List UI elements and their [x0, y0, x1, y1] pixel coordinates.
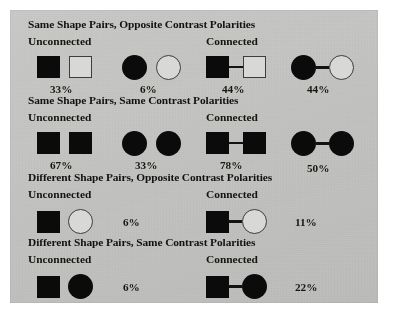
- stimulus-pair: [122, 131, 181, 156]
- square-black-shape: [206, 211, 229, 233]
- circle-white-shape: [156, 55, 181, 80]
- stimulus-pair: [206, 209, 267, 234]
- percent-label: 6%: [123, 216, 140, 228]
- circle-black-shape: [156, 131, 181, 156]
- section-title: Same Shape Pairs, Same Contrast Polariti…: [28, 94, 238, 106]
- circle-black-shape: [68, 274, 93, 299]
- circle-black-shape: [291, 131, 316, 156]
- percent-label: 67%: [50, 159, 72, 171]
- square-black-shape: [243, 132, 266, 154]
- circle-black-shape: [329, 131, 354, 156]
- circle-white-shape: [242, 209, 267, 234]
- stimulus-pair: [206, 274, 267, 299]
- column-label-connected: Connected: [206, 253, 258, 265]
- connector-line: [229, 285, 242, 287]
- square-black-shape: [37, 132, 60, 154]
- column-label-unconnected: Unconnected: [28, 35, 91, 47]
- connector-line: [229, 66, 243, 68]
- section-same-shape-opposite-polarity: Same Shape Pairs, Opposite Contrast Pola…: [10, 18, 378, 96]
- column-label-unconnected: Unconnected: [28, 188, 91, 200]
- column-label-connected: Connected: [206, 188, 258, 200]
- column-label-unconnected: Unconnected: [28, 111, 91, 123]
- stimulus-pair: [37, 274, 93, 299]
- square-white-shape: [243, 56, 266, 78]
- square-black-shape: [206, 132, 229, 154]
- column-label-unconnected: Unconnected: [28, 253, 91, 265]
- column-label-connected: Connected: [206, 35, 258, 47]
- square-black-shape: [37, 211, 60, 233]
- connector-line: [316, 142, 329, 144]
- section-title: Same Shape Pairs, Opposite Contrast Pola…: [28, 18, 255, 30]
- percent-label: 22%: [295, 281, 317, 293]
- percent-label: 78%: [220, 159, 242, 171]
- square-black-shape: [206, 56, 229, 78]
- percent-label: 11%: [295, 216, 317, 228]
- stimulus-pair: [37, 132, 92, 154]
- section-different-shape-same-polarity: Different Shape Pairs, Same Contrast Pol…: [10, 236, 378, 302]
- section-same-shape-same-polarity: Same Shape Pairs, Same Contrast Polariti…: [10, 94, 378, 172]
- percent-label: 6%: [123, 281, 140, 293]
- square-white-shape: [69, 56, 92, 78]
- stimulus-pair: [291, 131, 354, 156]
- stimulus-pair: [206, 132, 266, 154]
- stimulus-pair: [291, 55, 354, 80]
- percent-label: 33%: [135, 159, 157, 171]
- circle-black-shape: [122, 131, 147, 156]
- circle-black-shape: [291, 55, 316, 80]
- circle-black-shape: [242, 274, 267, 299]
- square-black-shape: [69, 132, 92, 154]
- connector-line: [229, 142, 243, 144]
- column-label-connected: Connected: [206, 111, 258, 123]
- section-different-shape-opposite-polarity: Different Shape Pairs, Opposite Contrast…: [10, 171, 378, 237]
- circle-white-shape: [68, 209, 93, 234]
- section-title: Different Shape Pairs, Same Contrast Pol…: [28, 236, 255, 248]
- stimulus-pair: [206, 56, 266, 78]
- connector-line: [316, 66, 329, 68]
- stimulus-pair: [37, 209, 93, 234]
- circle-white-shape: [329, 55, 354, 80]
- stimulus-pair: [122, 55, 181, 80]
- square-black-shape: [37, 276, 60, 298]
- square-black-shape: [37, 56, 60, 78]
- section-title: Different Shape Pairs, Opposite Contrast…: [28, 171, 272, 183]
- stimulus-pair: [37, 56, 92, 78]
- connector-line: [229, 220, 242, 222]
- figure-panel: Same Shape Pairs, Opposite Contrast Pola…: [10, 10, 378, 303]
- square-black-shape: [206, 276, 229, 298]
- circle-black-shape: [122, 55, 147, 80]
